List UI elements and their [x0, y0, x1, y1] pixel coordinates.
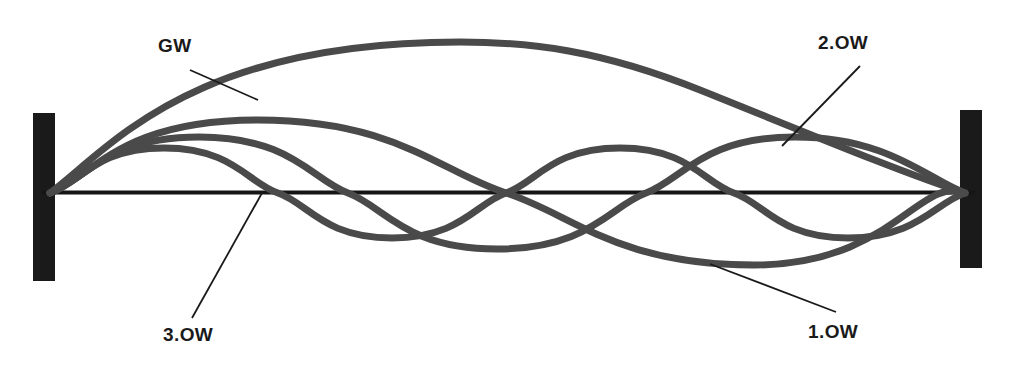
left-anchor-block: [33, 113, 55, 281]
wave-curve-gw: [50, 42, 965, 193]
leader-line-2ow: [782, 66, 860, 146]
leader-line-3ow: [192, 193, 262, 318]
mode-label-gw: GW: [158, 36, 192, 55]
mode-label-3ow: 3.OW: [163, 325, 213, 344]
mode-label-2ow: 2.OW: [818, 33, 868, 52]
vibration-modes-canvas: [0, 0, 1010, 371]
vibration-mode-diagram: GW 2.OW 3.OW 1.OW: [0, 0, 1010, 371]
leader-line-1ow: [710, 264, 836, 312]
mode-label-1ow: 1.OW: [808, 322, 858, 341]
